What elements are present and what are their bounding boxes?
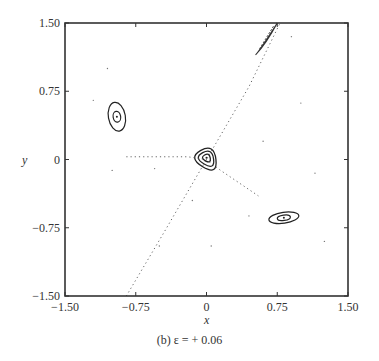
scatter-point: [93, 100, 94, 101]
scatter-point: [211, 245, 212, 246]
plot-area: [93, 23, 326, 296]
fixed-point: [116, 116, 118, 118]
y-axis-label: y: [21, 153, 28, 167]
axis-ticks: −1.50−0.7500.751.50−1.50−0.7500.751.50: [32, 16, 358, 314]
y-tick-label: 0: [54, 153, 60, 167]
phase-portrait-chart: −1.50−0.7500.751.50−1.50−0.7500.751.50 y…: [0, 0, 379, 361]
orbit-curve: [256, 23, 278, 55]
scatter-point: [324, 241, 325, 242]
scatter-point: [300, 102, 301, 103]
figure-caption: (b) ε = + 0.06: [0, 333, 379, 348]
scatter-point: [111, 170, 112, 171]
x-tick-label: −0.75: [122, 300, 150, 314]
scatter-point: [192, 200, 193, 201]
y-tick-label: −1.50: [32, 289, 60, 303]
x-axis-label: x: [203, 313, 210, 327]
scatter-point: [291, 36, 292, 37]
separatrix-line: [126, 157, 258, 196]
scatter-point: [159, 245, 160, 246]
scatter-point: [248, 215, 249, 216]
x-tick-label: 0.75: [267, 300, 288, 314]
x-tick-label: 1.50: [338, 300, 359, 314]
orbit-curve: [260, 25, 275, 49]
scatter-point: [107, 68, 108, 69]
scatter-point: [262, 141, 263, 142]
y-tick-label: 0.75: [39, 84, 60, 98]
scatter-point: [314, 172, 315, 173]
fixed-point: [283, 217, 285, 219]
x-tick-label: 0: [204, 300, 210, 314]
y-tick-label: 1.50: [39, 16, 60, 30]
orbit-curve: [198, 151, 213, 166]
scatter-point: [154, 168, 155, 169]
y-tick-label: −0.75: [32, 221, 60, 235]
